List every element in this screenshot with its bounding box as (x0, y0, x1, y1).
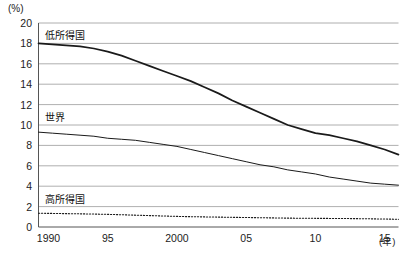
x-tick-05: 05 (240, 232, 252, 244)
series-label-world: 世界 (45, 109, 65, 124)
series-label-high-income: 高所得国 (45, 191, 85, 206)
line-chart: (%) (年) 20181614121086420 19909520000510… (0, 0, 409, 255)
y-tick-14: 14 (8, 78, 32, 90)
y-tick-12: 12 (8, 99, 32, 111)
x-tick-10: 10 (310, 232, 322, 244)
y-tick-6: 6 (8, 160, 32, 172)
y-tick-8: 8 (8, 139, 32, 151)
series-label-low-income: 低所得国 (45, 27, 85, 42)
y-tick-2: 2 (8, 201, 32, 213)
y-tick-16: 16 (8, 58, 32, 70)
y-tick-4: 4 (8, 180, 32, 192)
y-tick-18: 18 (8, 37, 32, 49)
y-tick-0: 0 (8, 221, 32, 233)
y-tick-20: 20 (8, 17, 32, 29)
x-tick-2000: 2000 (165, 232, 188, 244)
x-tick-1990: 1990 (37, 232, 60, 244)
x-tick-95: 95 (102, 232, 114, 244)
x-tick-15: 15 (379, 232, 391, 244)
y-tick-10: 10 (8, 119, 32, 131)
